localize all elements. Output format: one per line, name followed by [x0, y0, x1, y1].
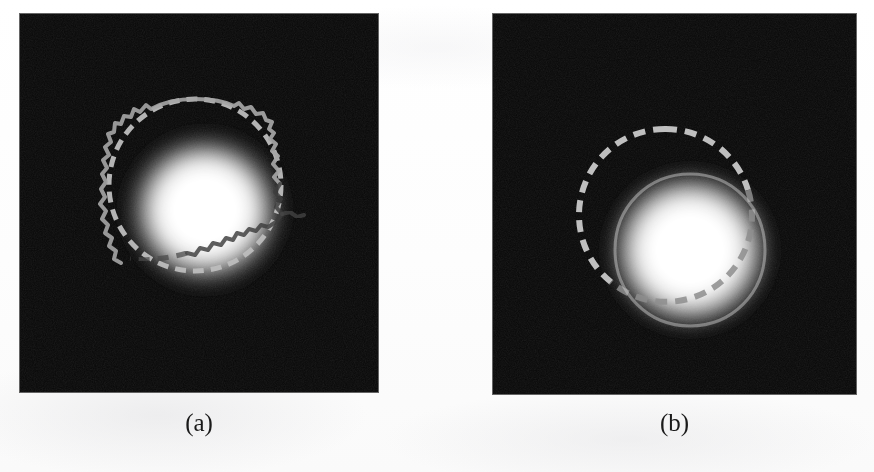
reference-arc-a-dark: [130, 253, 187, 260]
reference-circle-b-dark: [611, 190, 752, 302]
reference-circle-b-light-top: [665, 129, 748, 190]
contour-overlay-b: [493, 14, 856, 394]
result-contour-a-upper-left: [100, 99, 195, 263]
sensor-noise-b: [493, 14, 856, 394]
image-panel-a: [20, 14, 378, 392]
reference-circle-b-light: [579, 129, 665, 282]
reference-circle-a: [109, 99, 281, 271]
result-contour-a-dark: [187, 184, 282, 255]
result-contour-b: [615, 174, 765, 326]
sensor-noise-a: [20, 14, 378, 392]
result-contour-a-dark-tail: [282, 212, 304, 217]
panel-a-caption: (a): [20, 410, 378, 435]
image-panel-b: [493, 14, 856, 394]
contour-overlay-a: [20, 14, 378, 392]
panel-b-caption: (b): [493, 410, 856, 435]
figure-root: (a) (b): [0, 0, 874, 472]
intensity-blob-b: [493, 14, 856, 394]
result-contour-a-light: [195, 99, 280, 184]
intensity-blob-a: [20, 14, 378, 392]
